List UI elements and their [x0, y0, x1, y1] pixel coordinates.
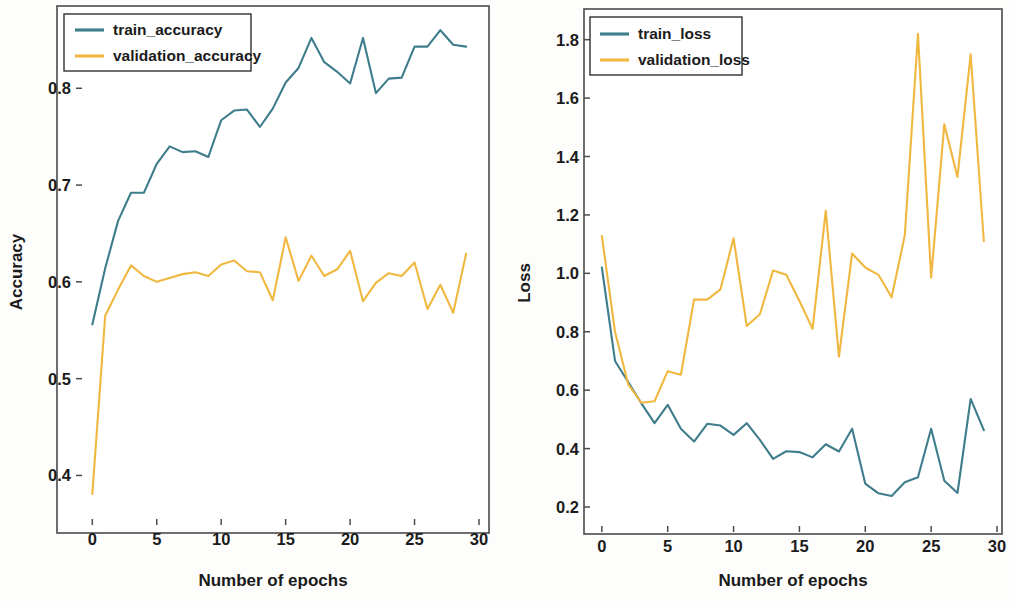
x-tick-label: 30 [470, 530, 488, 548]
x-tick-label: 20 [856, 537, 874, 555]
x-tick-label: 0 [597, 537, 606, 555]
y-tick-label: 0.4 [48, 466, 72, 484]
accuracy-x-axis-title: Number of epochs [198, 571, 347, 590]
loss-legend: train_loss validation_loss [590, 17, 750, 75]
legend-label-validation-accuracy: validation_accuracy [113, 47, 262, 64]
x-tick-label: 5 [663, 537, 672, 555]
x-tick-label: 5 [152, 530, 161, 548]
y-tick-label: 0.6 [48, 273, 71, 291]
y-tick-label: 0.7 [48, 176, 71, 194]
x-tick-label: 15 [790, 537, 808, 555]
y-tick-label: 0.2 [556, 498, 579, 516]
y-tick-label: 1.8 [556, 31, 579, 49]
x-tick-label: 10 [724, 537, 742, 555]
y-tick-label: 0.4 [556, 440, 580, 458]
legend-label-validation-loss: validation_loss [638, 51, 750, 68]
accuracy-plot-frame [57, 6, 489, 533]
y-tick-label: 0.8 [556, 323, 579, 341]
y-tick-label: 1.6 [556, 89, 579, 107]
loss-y-axis-title: Loss [515, 263, 534, 303]
accuracy-y-axis-title: Accuracy [7, 233, 26, 310]
y-tick-label: 0.8 [48, 79, 71, 97]
training-curves-figure: 0.40.50.60.70.8051015202530 Number of ep… [0, 0, 1015, 606]
x-tick-label: 25 [405, 530, 423, 548]
y-tick-label: 0.5 [48, 370, 71, 388]
x-tick-label: 20 [341, 530, 359, 548]
legend-label-train-accuracy: train_accuracy [113, 21, 223, 38]
x-tick-label: 15 [276, 530, 294, 548]
y-tick-label: 1.0 [556, 264, 579, 282]
accuracy-chart-panel: 0.40.50.60.70.8051015202530 Number of ep… [0, 0, 505, 606]
accuracy-legend: train_accuracy validation_accuracy [64, 14, 262, 71]
loss-plot-frame [584, 9, 1002, 534]
loss-x-axis-title: Number of epochs [718, 571, 867, 590]
x-tick-label: 10 [212, 530, 230, 548]
loss-chart-panel: 0.20.40.60.81.01.21.41.61.8051015202530 … [505, 0, 1015, 606]
x-tick-label: 25 [922, 537, 940, 555]
y-tick-label: 0.6 [556, 381, 579, 399]
legend-label-train-loss: train_loss [638, 25, 711, 42]
y-tick-label: 1.2 [556, 206, 579, 224]
x-tick-label: 30 [988, 537, 1006, 555]
x-tick-label: 0 [88, 530, 97, 548]
loss-chart-svg: 0.20.40.60.81.01.21.41.61.8051015202530 … [505, 0, 1015, 606]
accuracy-chart-svg: 0.40.50.60.70.8051015202530 Number of ep… [0, 0, 505, 606]
y-tick-label: 1.4 [556, 148, 580, 166]
